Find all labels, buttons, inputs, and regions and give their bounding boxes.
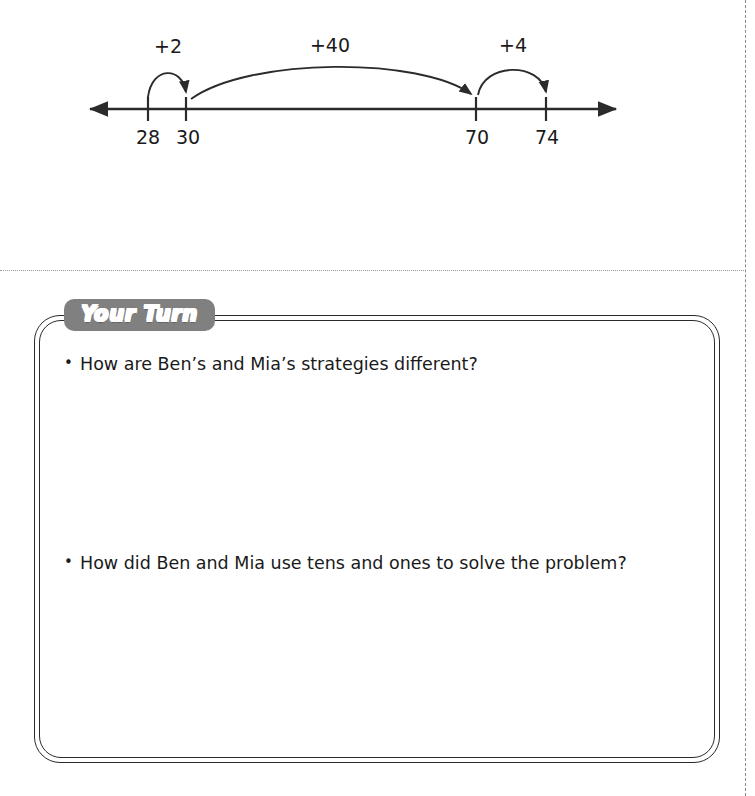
question-item: • How are Ben’s and Mia’s strategies dif…	[64, 353, 704, 377]
question-text: How did Ben and Mia use tens and ones to…	[80, 552, 704, 576]
question-list: • How are Ben’s and Mia’s strategies dif…	[34, 315, 720, 763]
tick-label-74: 74	[535, 126, 559, 148]
tick-label-70: 70	[465, 126, 489, 148]
jump-arc-plus-4	[478, 70, 546, 95]
tick-label-30: 30	[176, 126, 200, 148]
tick-label-28: 28	[136, 126, 160, 148]
jump-label-plus-2: +2	[154, 35, 182, 57]
question-item: • How did Ben and Mia use tens and ones …	[64, 552, 704, 576]
question-text: How are Ben’s and Mia’s strategies diffe…	[80, 353, 704, 377]
bullet-icon: •	[64, 353, 80, 373]
your-turn-badge-label: Your Turn	[81, 303, 198, 325]
jump-label-plus-40: +40	[310, 34, 350, 56]
your-turn-badge: Your Turn	[64, 299, 215, 331]
your-turn-panel: Your Turn • How are Ben’s and Mia’s stra…	[34, 315, 720, 763]
page-trim-line-right	[745, 0, 746, 796]
number-line-figure: 28 30 70 74 +2 +40 +4	[0, 0, 700, 170]
number-line-svg: 28 30 70 74 +2 +40 +4	[0, 0, 700, 170]
jump-arc-plus-2	[148, 73, 186, 97]
jump-arc-plus-40	[191, 67, 471, 99]
bullet-icon: •	[64, 552, 80, 572]
jump-label-plus-4: +4	[499, 34, 527, 56]
page-trim-line-horizontal	[0, 270, 746, 271]
